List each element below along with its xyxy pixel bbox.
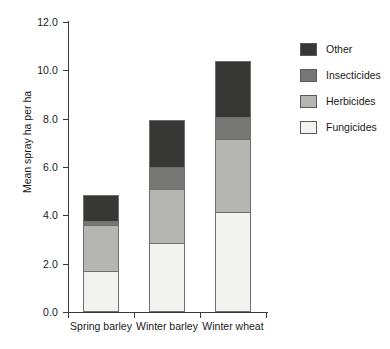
x-axis-category-label: Winter wheat	[200, 320, 266, 332]
legend-label: Herbicides	[326, 95, 376, 107]
bar-segment[interactable]	[215, 117, 251, 139]
x-tick-mark	[200, 312, 201, 318]
bar-segment[interactable]	[215, 212, 251, 312]
legend-label: Fungicides	[326, 121, 377, 133]
y-tick-label: 6.0	[24, 162, 58, 172]
bar-segment[interactable]	[149, 120, 185, 167]
bar-segment[interactable]	[83, 195, 119, 222]
legend-item[interactable]: Herbicides	[300, 88, 390, 114]
x-tick-mark	[68, 312, 69, 318]
y-tick-label: 4.0	[24, 210, 58, 220]
legend-swatch-icon	[300, 95, 317, 108]
legend-item[interactable]: Other	[300, 36, 390, 62]
chart-container: Mean spray ha per ha 0.02.04.06.08.010.0…	[0, 0, 390, 349]
bar-stack[interactable]	[215, 61, 251, 312]
bar-segment[interactable]	[149, 243, 185, 312]
bar-segment[interactable]	[149, 167, 185, 189]
x-tick-mark	[134, 312, 135, 318]
x-axis-category-label: Winter barley	[134, 320, 200, 332]
y-tick-label: 12.0	[24, 17, 58, 27]
bar-segment[interactable]	[149, 189, 185, 243]
x-axis-category-label: Spring barley	[68, 320, 134, 332]
bar-segment[interactable]	[83, 225, 119, 271]
bar-stack[interactable]	[149, 120, 185, 312]
legend-label: Other	[326, 43, 352, 55]
bar-segment[interactable]	[83, 271, 119, 312]
y-tick-label: 8.0	[24, 114, 58, 124]
legend-item[interactable]: Insecticides	[300, 62, 390, 88]
y-tick-label: 0.0	[24, 307, 58, 317]
legend-label: Insecticides	[326, 69, 381, 81]
legend-swatch-icon	[300, 43, 317, 56]
x-axis-line	[68, 312, 268, 313]
legend-swatch-icon	[300, 69, 317, 82]
legend-swatch-icon	[300, 121, 317, 134]
y-axis-title: Mean spray ha per ha	[21, 57, 33, 227]
bar-stack[interactable]	[83, 195, 119, 312]
legend-item[interactable]: Fungicides	[300, 114, 390, 140]
bar-segment[interactable]	[215, 61, 251, 118]
chart-legend: OtherInsecticidesHerbicidesFungicides	[300, 36, 390, 140]
plot-area	[68, 22, 266, 312]
x-tick-mark	[266, 312, 267, 318]
bar-segment[interactable]	[215, 139, 251, 212]
y-tick-label: 2.0	[24, 259, 58, 269]
y-tick-label: 10.0	[24, 65, 58, 75]
